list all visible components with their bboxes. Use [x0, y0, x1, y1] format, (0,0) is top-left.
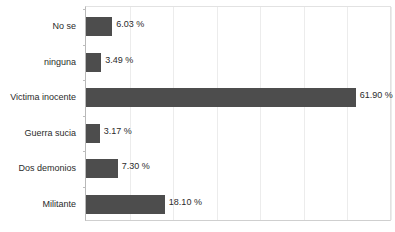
- bar-value-label: 18.10 %: [169, 198, 202, 207]
- y-axis-tick: [83, 187, 86, 188]
- bar: [86, 159, 118, 178]
- bar-value-label: 3.49 %: [105, 56, 133, 65]
- category-label: ninguna: [44, 58, 76, 67]
- bar-value-label: 61.90 %: [360, 91, 393, 100]
- bar-row: No se6.03 %: [86, 9, 390, 45]
- category-label: Militante: [42, 200, 76, 209]
- bar: [86, 17, 112, 36]
- bar-row: Militante18.10 %: [86, 187, 390, 223]
- gridline: [391, 7, 392, 220]
- category-label: Victima inocente: [10, 93, 76, 102]
- y-axis-tick: [83, 45, 86, 46]
- category-label: Dos demonios: [18, 164, 76, 173]
- bar: [86, 195, 165, 214]
- y-axis-tick: [83, 80, 86, 81]
- y-axis-tick: [83, 116, 86, 117]
- bar: [86, 88, 356, 107]
- bar: [86, 53, 101, 72]
- bar-value-label: 3.17 %: [104, 127, 132, 136]
- bar-row: Victima inocente61.90 %: [86, 80, 390, 116]
- horizontal-bar-chart: No se6.03 %ninguna3.49 %Victima inocente…: [0, 0, 395, 232]
- bar-value-label: 7.30 %: [122, 162, 150, 171]
- bar-row: ninguna3.49 %: [86, 45, 390, 81]
- category-label: No se: [52, 22, 76, 31]
- bar-row: Guerra sucia3.17 %: [86, 116, 390, 152]
- y-axis-tick: [83, 151, 86, 152]
- category-label: Guerra sucia: [24, 129, 76, 138]
- plot-area: No se6.03 %ninguna3.49 %Victima inocente…: [85, 6, 391, 221]
- bar-row: Dos demonios7.30 %: [86, 151, 390, 187]
- bar-value-label: 6.03 %: [116, 20, 144, 29]
- y-axis-tick: [83, 9, 86, 10]
- bar: [86, 124, 100, 143]
